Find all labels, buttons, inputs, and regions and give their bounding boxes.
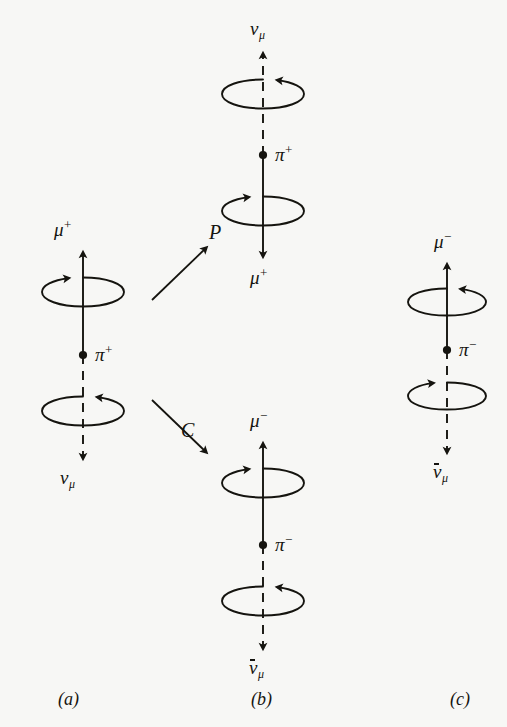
- panel-b-bottom-pion-label: π−: [275, 533, 292, 554]
- figure-canvas: [0, 0, 507, 727]
- caption-b: (b): [251, 690, 272, 708]
- panel-a-pion-label: π+: [95, 343, 112, 364]
- panel-a-neutrino-label: νμ: [60, 468, 75, 490]
- parity-operator-label: P: [209, 222, 221, 242]
- panel-b-bottom-muon-label: μ−: [250, 409, 267, 430]
- caption-a: (a): [58, 690, 79, 708]
- physics-figure: μ+ π+ νμ P C νμ π+ μ+ μ− π− νμ μ− π− νμ: [0, 0, 507, 727]
- charge-conjugation-operator-label: C: [181, 420, 194, 440]
- charge-conjugation-transform-arrow: [152, 400, 206, 452]
- panel-b-bottom-antineutrino-label: νμ: [249, 658, 264, 680]
- panel-c-pion-label: π−: [459, 338, 476, 359]
- panel-a-pion-dot: [79, 351, 87, 359]
- panel-b-top-pion-dot: [259, 151, 267, 159]
- panel-a-muon-label: μ+: [54, 218, 71, 239]
- panel-b-top-muon-label: μ+: [250, 266, 267, 287]
- panel-c-muon-label: μ−: [434, 230, 451, 251]
- panel-c-pion-dot: [443, 346, 451, 354]
- panel-c-antineutrino-label: νμ: [433, 462, 448, 484]
- caption-c: (c): [450, 690, 470, 708]
- panel-b-top-neutrino-label: νμ: [250, 19, 265, 41]
- panel-b-top-pion-label: π+: [275, 143, 292, 164]
- parity-transform-arrow: [152, 248, 206, 300]
- panel-b-bottom-pion-dot: [259, 541, 267, 549]
